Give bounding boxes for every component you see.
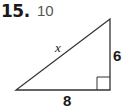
- hypotenuse-label: x: [55, 40, 61, 56]
- vertical-leg-label: 6: [113, 47, 121, 64]
- triangle-outline: [16, 19, 110, 90]
- horizontal-leg-label: 8: [63, 92, 71, 109]
- right-angle-marker-icon: [97, 77, 110, 90]
